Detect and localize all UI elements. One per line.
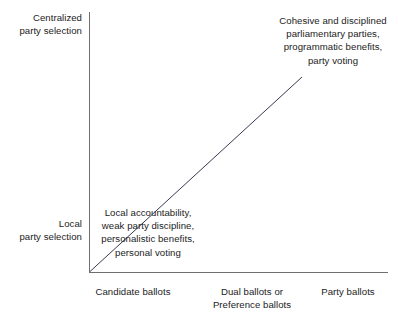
x-axis-label-dual-preference-ballots: Dual ballots or Preference ballots xyxy=(200,285,304,311)
annotation-low-end: Local accountability, weak party discipl… xyxy=(96,206,200,259)
annotation-high-end: Cohesive and disciplined parliamentary p… xyxy=(268,14,398,67)
y-axis-bottom-label: Local party selection xyxy=(4,217,82,243)
x-axis-label-party-ballots: Party ballots xyxy=(305,285,391,298)
y-axis-top-label: Centralized party selection xyxy=(4,11,82,37)
x-axis-label-candidate-ballots: Candidate ballots xyxy=(86,285,180,298)
ballot-structure-diagram: Centralized party selection Local party … xyxy=(0,0,398,312)
